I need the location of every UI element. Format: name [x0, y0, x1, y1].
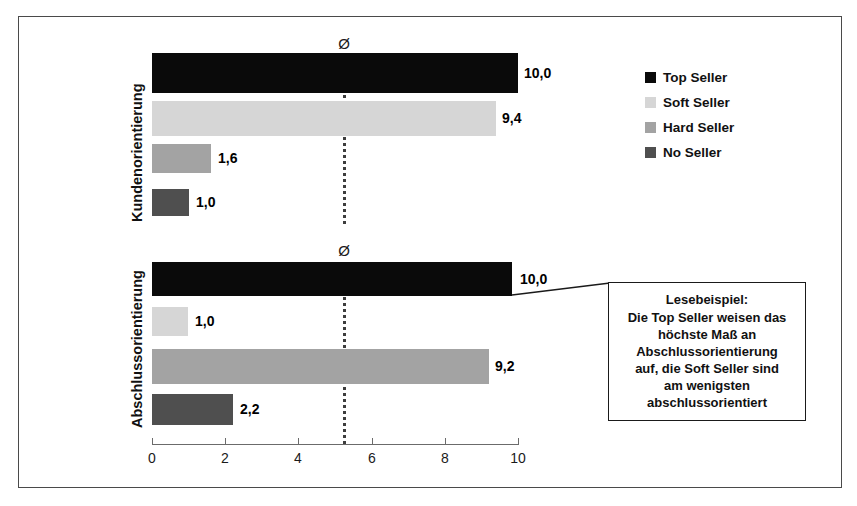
legend-swatch-icon-no-seller: [645, 147, 656, 158]
bar-abschlussorientierung-soft-seller: [152, 307, 188, 336]
bar-abschlussorientierung-hard-seller: [152, 349, 489, 384]
callout-line-4: Abschlussorientierung: [628, 343, 787, 360]
x-axis-line: [152, 444, 519, 445]
bar-abschlussorientierung-top-seller: [152, 262, 512, 296]
x-axis-tick-0: [152, 438, 153, 445]
legend-item-hard-seller: Hard Seller: [645, 116, 734, 138]
legend-item-top-seller: Top Seller: [645, 66, 734, 88]
legend-item-soft-seller: Soft Seller: [645, 91, 734, 113]
category-label-abschlussorientierung: Abschlussorientierung: [130, 270, 145, 428]
x-axis-tick-10: [518, 438, 519, 445]
x-axis-label-6: 6: [368, 451, 376, 465]
bar-value-abschlussorientierung-no-seller: 2,2: [240, 402, 259, 416]
bar-value-abschlussorientierung-soft-seller: 1,0: [195, 314, 214, 328]
callout-line-1: Lesebeispiel:: [628, 291, 787, 308]
bar-kundenorientierung-hard-seller: [152, 144, 211, 173]
callout-line-2: Die Top Seller weisen das: [628, 309, 787, 326]
x-axis-tick-4: [298, 438, 299, 445]
average-symbol-group1: Ø: [338, 36, 350, 51]
x-axis-tick-6: [372, 438, 373, 445]
bar-value-kundenorientierung-soft-seller: 9,4: [502, 111, 521, 125]
x-axis-label-0: 0: [148, 451, 156, 465]
bar-kundenorientierung-no-seller: [152, 189, 189, 216]
legend: Top Seller Soft Seller Hard Seller No Se…: [645, 66, 734, 166]
bar-abschlussorientierung-no-seller: [152, 394, 233, 425]
callout-line-5: auf, die Soft Seller sind: [628, 360, 787, 377]
category-label-kundenorientierung: Kundenorientierung: [130, 83, 145, 222]
legend-label-no-seller: No Seller: [663, 145, 722, 160]
legend-label-soft-seller: Soft Seller: [663, 95, 730, 110]
callout-line-3: höchste Maß an: [628, 326, 787, 343]
bar-value-abschlussorientierung-hard-seller: 9,2: [495, 359, 514, 373]
x-axis-tick-8: [445, 438, 446, 445]
x-axis-label-2: 2: [221, 451, 229, 465]
x-axis-label-4: 4: [294, 451, 302, 465]
average-symbol-group2: Ø: [338, 243, 350, 258]
callout-line-7: abschlussorientiert: [628, 394, 787, 411]
chart-root: Kundenorientierung Abschlussorientierung…: [0, 0, 857, 506]
callout-text: Lesebeispiel: Die Top Seller weisen das …: [624, 291, 791, 411]
callout-leader-line: [512, 282, 610, 296]
bar-value-kundenorientierung-hard-seller: 1,6: [218, 151, 237, 165]
callout-line-6: am wenigsten: [628, 377, 787, 394]
legend-label-top-seller: Top Seller: [663, 70, 727, 85]
bar-kundenorientierung-soft-seller: [152, 101, 496, 136]
legend-item-no-seller: No Seller: [645, 141, 734, 163]
legend-swatch-icon-hard-seller: [645, 122, 656, 133]
bar-kundenorientierung-top-seller: [152, 53, 518, 93]
callout-box: Lesebeispiel: Die Top Seller weisen das …: [608, 282, 806, 421]
x-axis-label-10: 10: [510, 451, 526, 465]
x-axis-label-8: 8: [441, 451, 449, 465]
bar-value-kundenorientierung-no-seller: 1,0: [196, 195, 215, 209]
legend-swatch-icon-top-seller: [645, 72, 656, 83]
x-axis-tick-2: [225, 438, 226, 445]
bar-value-kundenorientierung-top-seller: 10,0: [524, 66, 551, 80]
legend-swatch-icon-soft-seller: [645, 97, 656, 108]
legend-label-hard-seller: Hard Seller: [663, 120, 734, 135]
